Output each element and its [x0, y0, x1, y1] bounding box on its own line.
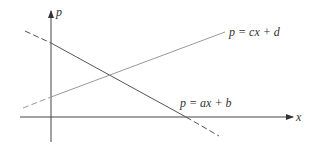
line-rising-dashed-left: [23, 97, 51, 108]
line-falling-dashed-right: [186, 117, 219, 136]
linear-equations-diagram: p x p = ax + b p = cx + d: [0, 0, 311, 148]
line-rising-label: p = cx + d: [228, 25, 281, 39]
line-rising-solid: [51, 32, 225, 97]
line-falling-dashed-left: [25, 31, 51, 43]
y-axis-label: p: [55, 5, 62, 19]
line-falling-label: p = ax + b: [179, 96, 232, 110]
line-falling: [25, 31, 219, 136]
x-axis-label: x: [295, 110, 302, 124]
